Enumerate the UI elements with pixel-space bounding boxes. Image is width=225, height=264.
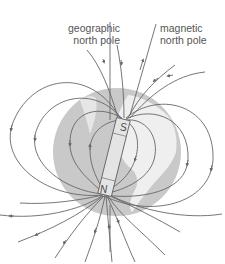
magnetic-field-diagram: S N bbox=[0, 0, 225, 264]
north-pole-letter: N bbox=[100, 184, 108, 195]
south-pole-letter: S bbox=[120, 122, 127, 133]
